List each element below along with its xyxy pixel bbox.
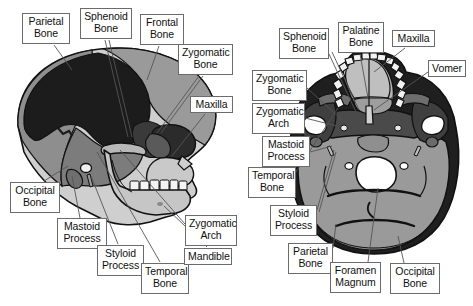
label-maxilla-inf[interactable]: Maxilla [392,30,435,47]
label-parietal-bone[interactable]: Parietal Bone [22,13,70,44]
skull-anatomy-figure: Parietal BoneSphenoid BoneFrontal BoneZy… [0,0,473,306]
label-zygomatic-arch-inf[interactable]: Zygomatic Arch [252,103,305,134]
label-zygomatic-bone-inf[interactable]: Zygomatic Bone [252,70,307,101]
occipital-condyle-right [400,163,408,170]
label-maxilla[interactable]: Maxilla [190,96,233,113]
vomer-region [366,106,373,124]
carotid-canal-left [341,125,348,131]
palatine-bone-region [354,97,392,114]
label-temporal-bone[interactable]: Temporal Bone [141,263,189,294]
label-temporal-bone-inf[interactable]: Temporal Bone [248,167,296,198]
occipital-condyle-left [345,163,353,170]
label-styloid-process[interactable]: Styloid Process [97,245,144,276]
label-frontal-bone[interactable]: Frontal Bone [140,14,184,45]
label-zygomatic-bone[interactable]: Zygomatic Bone [178,44,233,75]
foramen-magnum-region [356,157,396,192]
label-zygomatic-arch[interactable]: Zygomatic Arch [185,215,237,246]
label-occipital-bone[interactable]: Occipital Bone [10,182,60,213]
label-sphenoid-bone-inf[interactable]: Sphenoid Bone [279,28,329,59]
label-parietal-bone-inf[interactable]: Parietal Bone [288,243,333,274]
label-foramen-magnum[interactable]: Foramen Magnum [330,262,381,293]
mandibular-fossa-right [422,116,444,135]
label-sphenoid-bone[interactable]: Sphenoid Bone [80,8,132,39]
external-acoustic-meatus [81,164,92,173]
label-occipital-bone-inf[interactable]: Occipital Bone [390,263,440,294]
label-mandible[interactable]: Mandible [184,248,232,265]
label-vomer[interactable]: Vomer [428,60,466,77]
label-mastoid-process-inf[interactable]: Mastoid Process [262,136,310,167]
mental-foramen [157,202,163,206]
label-palatine-bone[interactable]: Palatine Bone [338,22,384,53]
label-styloid-process-inf[interactable]: Styloid Process [270,205,317,236]
mastoid-process-region-inf-right [426,137,438,147]
carotid-canal-right [395,125,402,131]
